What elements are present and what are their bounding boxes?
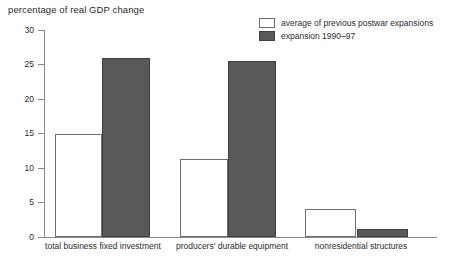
category-label: total business fixed investment <box>45 241 161 251</box>
legend-swatch <box>259 31 275 41</box>
x-axis-line <box>44 237 437 238</box>
y-axis-tick-label: 15 <box>0 129 34 138</box>
chart-title: percentage of real GDP change <box>8 4 144 15</box>
category-label: nonresidential structures <box>315 241 408 251</box>
y-axis-tick-label: 30 <box>0 26 34 35</box>
bar <box>357 229 408 237</box>
y-axis-tick-label: 0 <box>0 233 34 242</box>
plot-area <box>44 30 437 237</box>
bar-chart: percentage of real GDP change 0510152025… <box>0 0 450 269</box>
y-axis-tick-label: 5 <box>0 198 34 207</box>
chart-legend: average of previous postwar expansionsex… <box>259 17 433 43</box>
y-axis-tick-label: 10 <box>0 164 34 173</box>
bar <box>180 159 228 237</box>
bar <box>102 58 150 237</box>
legend-swatch <box>259 18 275 28</box>
y-axis-tick-label: 25 <box>0 60 34 69</box>
bar <box>55 134 102 237</box>
category-label: producers' durable equipment <box>176 241 288 251</box>
legend-item: expansion 1990–97 <box>259 30 433 41</box>
bar <box>305 209 356 237</box>
y-axis-tick-label: 20 <box>0 95 34 104</box>
legend-label: average of previous postwar expansions <box>281 18 433 28</box>
legend-label: expansion 1990–97 <box>281 31 355 41</box>
legend-item: average of previous postwar expansions <box>259 17 433 28</box>
bar <box>228 61 276 237</box>
